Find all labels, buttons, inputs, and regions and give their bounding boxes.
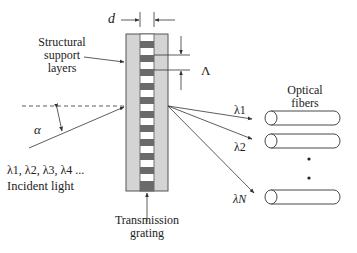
out-lambda-1: λ1 <box>234 104 246 117</box>
out-lambda-2: λ2 <box>234 141 246 154</box>
d-label: d <box>108 11 115 26</box>
optical-fibers-label: Optical fibers <box>280 84 330 110</box>
structural-line-3: layers <box>32 62 92 75</box>
ellipsis-dots <box>307 157 310 179</box>
incident-light-label: Incident light <box>7 180 74 194</box>
incident-wavelengths: λ1, λ2, λ3, λ4 ... <box>7 164 84 177</box>
transmission-label: Transmission grating <box>114 214 180 240</box>
d-dimension <box>121 12 175 27</box>
optical-line-2: fibers <box>280 97 330 110</box>
structural-label: Structural support layers <box>32 36 92 76</box>
optical-fibers <box>265 111 340 204</box>
out-lambda-n: λN <box>233 193 246 206</box>
alpha-label: α <box>34 123 41 137</box>
period-label: Λ <box>201 64 210 78</box>
transmission-line-2: grating <box>114 227 180 240</box>
